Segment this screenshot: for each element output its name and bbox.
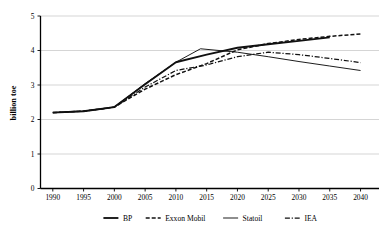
x-tick-label-2035: 2035 bbox=[322, 193, 337, 202]
x-tick-label-2000: 2000 bbox=[107, 193, 122, 202]
y-axis-title: billion toe bbox=[9, 85, 18, 120]
legend-label-iea: IEA bbox=[304, 214, 317, 223]
x-tick-label-2005: 2005 bbox=[138, 193, 153, 202]
y-tick-label-3: 3 bbox=[31, 81, 35, 90]
energy-demand-chart: 012345 199019952000200520102015202020252… bbox=[0, 0, 391, 233]
y-tick-label-4: 4 bbox=[31, 46, 35, 55]
x-tick-label-2010: 2010 bbox=[169, 193, 184, 202]
x-tick-label-2025: 2025 bbox=[261, 193, 276, 202]
legend-label-statoil: Statoil bbox=[243, 214, 263, 223]
x-tick-label-2030: 2030 bbox=[292, 193, 307, 202]
y-tick-label-1: 1 bbox=[31, 150, 35, 159]
y-tick-label-2: 2 bbox=[31, 115, 35, 124]
y-tick-label-0: 0 bbox=[31, 184, 35, 193]
legend-label-exxon-mobil: Exxon Mobil bbox=[165, 214, 205, 223]
x-tick-label-2020: 2020 bbox=[230, 193, 245, 202]
chart-canvas: 012345 199019952000200520102015202020252… bbox=[0, 0, 391, 233]
x-tick-label-1990: 1990 bbox=[45, 193, 60, 202]
y-tick-label-5: 5 bbox=[31, 12, 35, 21]
x-tick-label-2040: 2040 bbox=[353, 193, 368, 202]
x-tick-label-1995: 1995 bbox=[76, 193, 91, 202]
legend-label-bp: BP bbox=[123, 214, 132, 223]
x-tick-label-2015: 2015 bbox=[199, 193, 214, 202]
